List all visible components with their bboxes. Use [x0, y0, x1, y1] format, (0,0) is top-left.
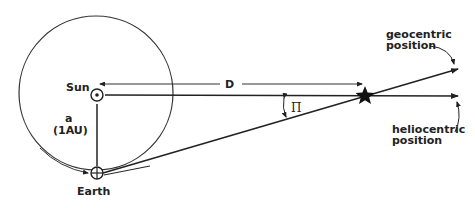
distance-label: D	[225, 78, 234, 91]
sun-icon	[91, 89, 103, 101]
sun-label: Sun	[66, 81, 90, 94]
geocentric-label-line2: position	[386, 39, 436, 52]
parallax-angle-arc	[283, 98, 286, 117]
earth-label: Earth	[77, 185, 110, 198]
parallax-diagram: D Π Sun Earth a (1AU) geocentric positio…	[0, 0, 475, 208]
orbit-arrow	[40, 148, 88, 173]
star-icon	[356, 86, 375, 104]
parallax-angle-label: Π	[291, 101, 301, 115]
earth-icon	[91, 167, 103, 179]
geocentric-line	[103, 69, 458, 173]
heliocentric-line	[105, 95, 458, 96]
heliocentric-label-line2: position	[392, 134, 442, 147]
semi-major-axis-unit: (1AU)	[53, 124, 88, 137]
